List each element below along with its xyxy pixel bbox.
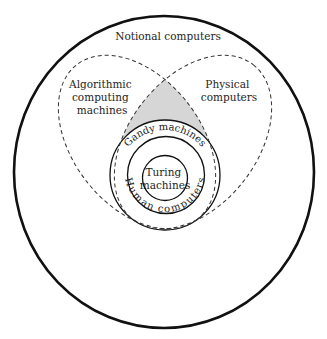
algorithmic-computing-machines-label: Algorithmic computing machines	[68, 78, 135, 116]
notional-computers-label: Notional computers	[115, 30, 221, 42]
turing-machines-label: Turing machines	[140, 166, 191, 191]
computer-classes-diagram: Notional computers Algorithmic computing…	[0, 0, 327, 339]
physical-computers-label: Physical computers	[201, 78, 257, 103]
